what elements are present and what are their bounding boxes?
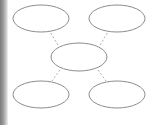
cluster-diagram bbox=[0, 0, 153, 125]
nodes bbox=[13, 5, 145, 108]
connector-center-bottom-right bbox=[98, 70, 106, 81]
connector-center-top-right bbox=[100, 32, 108, 45]
node-bottom-right[interactable] bbox=[89, 81, 145, 108]
node-top-right[interactable] bbox=[89, 5, 145, 32]
node-bottom-left[interactable] bbox=[13, 81, 69, 108]
connector-center-top-left bbox=[50, 32, 58, 45]
connector-center-bottom-left bbox=[52, 70, 60, 81]
node-top-left[interactable] bbox=[13, 5, 69, 32]
node-center[interactable] bbox=[51, 43, 107, 71]
